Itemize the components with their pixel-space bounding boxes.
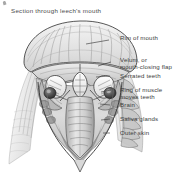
figure-title: Section through leech's mouth bbox=[11, 7, 101, 14]
label-brain-line-1: Brain bbox=[120, 101, 135, 108]
label-saliva-glands: Saliva glands bbox=[120, 115, 158, 122]
label-ring-of-muscle-line-1: Ring of muscle bbox=[120, 86, 162, 93]
label-brain: Brain bbox=[120, 101, 135, 108]
label-velum-line-1: Velum, or bbox=[120, 56, 172, 63]
label-ring-of-muscle-line-2: moves teeth bbox=[120, 93, 162, 100]
label-saliva-glands-line-1: Saliva glands bbox=[120, 115, 158, 122]
label-velum: Velum, or mouth-closing flap bbox=[120, 56, 172, 70]
label-velum-line-2: mouth-closing flap bbox=[120, 63, 172, 70]
label-outer-skin-line-1: Outer skin bbox=[120, 129, 149, 136]
label-rim-of-mouth: Rim of mouth bbox=[120, 34, 158, 41]
label-rim-of-mouth-line-1: Rim of mouth bbox=[120, 34, 158, 41]
label-ring-of-muscle: Ring of muscle moves teeth bbox=[120, 86, 162, 100]
label-serrated-teeth-line-1: Serrated teeth bbox=[120, 72, 161, 79]
leech-mouth-figure: Section through leech's mouth Rim of mou… bbox=[0, 0, 174, 178]
label-serrated-teeth: Serrated teeth bbox=[120, 72, 161, 79]
label-outer-skin: Outer skin bbox=[120, 129, 149, 136]
